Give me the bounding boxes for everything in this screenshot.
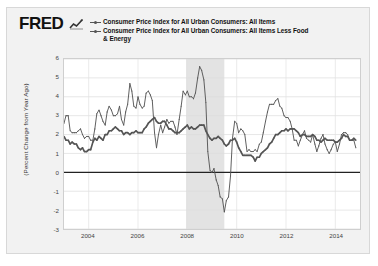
series-marker [213, 168, 214, 169]
series-marker [141, 132, 142, 133]
series-marker [65, 139, 66, 140]
series-marker [154, 117, 155, 118]
series-marker [287, 130, 288, 131]
series-marker [300, 140, 301, 141]
series-marker [127, 132, 128, 133]
series-marker [222, 198, 223, 199]
series-marker [71, 141, 72, 142]
series-marker [203, 124, 204, 125]
series-marker [218, 185, 219, 186]
series-marker [234, 138, 235, 139]
y-axis-ticks: 6543210-1-2-3 [43, 58, 59, 230]
series-marker [111, 109, 112, 110]
series-marker [279, 106, 280, 107]
series-marker [86, 136, 87, 137]
series-marker [92, 141, 93, 142]
series-marker [78, 130, 79, 131]
series-marker [201, 70, 202, 71]
series-marker [308, 140, 309, 141]
series-marker [168, 123, 169, 124]
series-marker [74, 143, 75, 144]
legend-swatch-icon [90, 30, 101, 33]
series-marker [80, 149, 81, 150]
series-marker [310, 136, 311, 137]
series-marker [139, 104, 140, 105]
series-marker [129, 83, 130, 84]
y-tick-label: 2 [45, 131, 59, 137]
series-marker [65, 115, 66, 116]
x-tick-label: 2014 [321, 232, 351, 239]
series-marker [170, 121, 171, 122]
series-marker [293, 128, 294, 129]
series-marker [121, 130, 122, 131]
series-marker [242, 155, 243, 156]
series-marker [166, 119, 167, 120]
series-marker [316, 151, 317, 152]
series-marker [341, 134, 342, 135]
series-marker [224, 143, 225, 144]
series-marker [273, 138, 274, 139]
series-marker [275, 100, 276, 101]
series-marker [333, 139, 334, 140]
series-marker [164, 126, 165, 127]
legend-item-core: Consumer Price Index for All Urban Consu… [103, 27, 308, 35]
series-marker [339, 143, 340, 144]
series-marker [115, 126, 116, 127]
series-marker [156, 147, 157, 148]
series-marker [131, 91, 132, 92]
series-marker [291, 128, 292, 129]
series-marker [209, 170, 210, 171]
series-marker [289, 128, 290, 129]
series-marker [193, 128, 194, 129]
series-marker [197, 77, 198, 78]
series-marker [248, 149, 249, 150]
series-marker [335, 141, 336, 142]
series-marker [82, 134, 83, 135]
series-marker [236, 123, 237, 124]
series-marker [347, 134, 348, 135]
x-axis-ticks: 200420062008201020122014 [63, 232, 361, 244]
series-marker [88, 149, 89, 150]
series-marker [265, 149, 266, 150]
series-marker [119, 106, 120, 107]
series-marker [217, 136, 218, 137]
series-marker [328, 139, 329, 140]
series-marker [337, 141, 338, 142]
series-marker [244, 155, 245, 156]
series-marker [316, 139, 317, 140]
series-marker [127, 104, 128, 105]
series-marker [90, 140, 91, 141]
series-marker [326, 139, 327, 140]
series-marker [341, 138, 342, 139]
series-marker [294, 140, 295, 141]
series-marker [170, 128, 171, 129]
series-marker [133, 132, 134, 133]
series-marker [308, 136, 309, 137]
series-marker [329, 153, 330, 154]
x-tick-label: 2012 [272, 232, 302, 239]
series-marker [331, 149, 332, 150]
series-marker [259, 156, 260, 157]
series-marker [314, 136, 315, 137]
y-tick-label: 5 [45, 74, 59, 80]
recession-shading [186, 59, 224, 229]
series-marker [320, 138, 321, 139]
series-marker [343, 132, 344, 133]
series-marker [246, 151, 247, 152]
series-marker [183, 91, 184, 92]
legend-label-continuation: & Energy [103, 35, 131, 42]
fred-logo: FRED [19, 15, 63, 32]
fred-chart-card: FRED Consumer Price Index for All Urban … [6, 7, 370, 254]
series-marker [76, 132, 77, 133]
series-marker [238, 132, 239, 133]
series-marker [105, 125, 106, 126]
series-marker [115, 115, 116, 116]
series-marker [304, 130, 305, 131]
series-marker [146, 92, 147, 93]
series-marker [242, 130, 243, 131]
y-tick-label: 0 [45, 170, 59, 176]
series-marker [178, 132, 179, 133]
series-marker [180, 130, 181, 131]
series-marker [94, 138, 95, 139]
series-marker [107, 111, 108, 112]
